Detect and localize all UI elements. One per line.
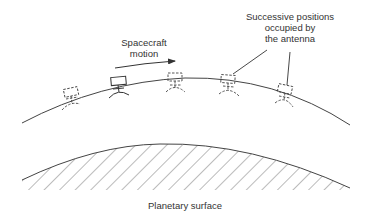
leader-line-1	[233, 50, 267, 74]
antenna-position-1	[62, 87, 80, 110]
planetary-surface-label: Planetary surface	[135, 200, 235, 211]
positions-label-line-2: occupied by	[240, 22, 340, 33]
orbit-path	[22, 78, 350, 125]
spacecraft-motion-label: Spacecraft motion	[112, 37, 176, 59]
leader-line-2	[287, 52, 290, 85]
planetary-surface	[0, 130, 370, 200]
antenna-positions-label: Successive positions occupied by the ant…	[240, 11, 340, 44]
antenna-position-4	[219, 75, 239, 96]
motion-label-line-2: motion	[112, 48, 176, 59]
positions-label-line-3: the antenna	[240, 33, 340, 44]
motion-arrow	[115, 61, 175, 68]
positions-label-line-1: Successive positions	[240, 11, 340, 22]
motion-label-line-1: Spacecraft	[112, 37, 176, 48]
antenna-position-3	[166, 73, 185, 92]
